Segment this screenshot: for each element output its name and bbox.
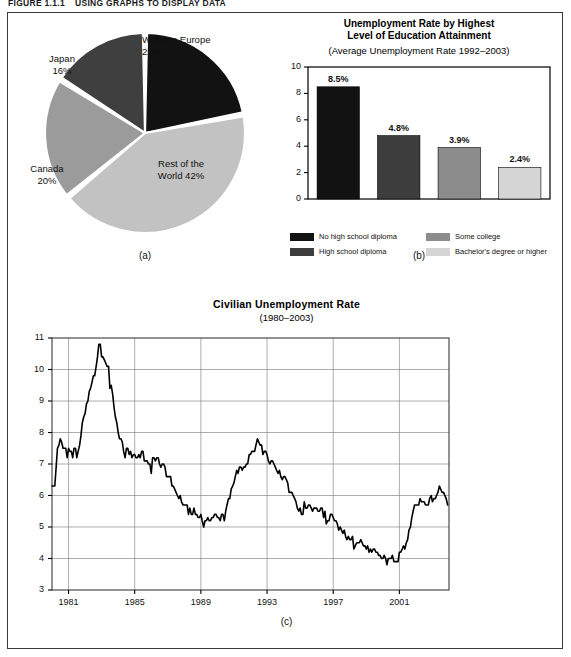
pie-label-rest-of-world-value: World 42%: [142, 170, 220, 182]
legend-swatch-icon: [290, 233, 314, 241]
subfigure-label-c: (c): [14, 616, 559, 627]
figure-caption-text: USING GRAPHS TO DISPLAY DATA: [75, 0, 226, 8]
bar-3: [438, 148, 480, 199]
bar-y-tick-label: 4: [281, 140, 301, 150]
line-x-tick-label: 2001: [382, 597, 416, 607]
line-y-tick-label: 7: [26, 458, 44, 468]
line-x-tick-label: 1997: [316, 597, 350, 607]
figure-number: FIGURE 1.1.1: [8, 0, 65, 8]
pie-label-canada-name: Canada: [16, 163, 78, 175]
pie-label-western-europe-value: 22%: [142, 46, 210, 58]
line-x-tick-label: 1993: [250, 597, 284, 607]
line-y-tick-label: 4: [26, 553, 44, 563]
line-chart-svg: [14, 328, 559, 618]
bar-value-label: 4.8%: [379, 123, 419, 133]
bar-chart-title-line1: Unemployment Rate by Highest: [278, 18, 560, 30]
bar-y-tick-label: 2: [281, 167, 301, 177]
line-y-tick-label: 6: [26, 490, 44, 500]
bar-y-tick-label: 8: [281, 87, 301, 97]
bar-4: [499, 167, 541, 199]
legend-label: No high school diploma: [319, 232, 397, 242]
pie-label-japan-value: 16%: [32, 65, 92, 77]
pie-label-canada-value: 20%: [16, 175, 78, 187]
pie-label-rest-of-world-name: Rest of the: [142, 158, 220, 170]
legend-swatch-icon: [426, 233, 450, 241]
line-x-tick-label: 1985: [118, 597, 152, 607]
legend-label: Some college: [455, 232, 500, 242]
bar-y-tick-label: 6: [281, 114, 301, 124]
bar-2: [378, 136, 420, 199]
pie-label-western-europe: Western Europe 22%: [142, 34, 210, 57]
bar-chart-plot-area: 02468108.5%4.8%3.9%2.4%: [278, 61, 560, 211]
line-y-tick-label: 3: [26, 584, 44, 594]
subfigure-label-a: (a): [14, 250, 276, 261]
line-chart-title: Civilian Unemployment Rate: [14, 298, 559, 310]
bar-chart-subtitle: (Average Unemployment Rate 1992–2003): [278, 45, 560, 57]
bar-value-label: 8.5%: [318, 74, 358, 84]
bar-y-tick-label: 0: [281, 193, 301, 203]
pie-label-canada: Canada 20%: [16, 163, 78, 186]
panel-a-pie-chart: Western Europe 22% Japan 16% Canada 20% …: [14, 18, 276, 270]
bar-1: [317, 87, 359, 199]
line-y-tick-label: 10: [26, 364, 44, 374]
bar-chart-title-line2: Level of Education Attainment: [278, 30, 560, 42]
line-series-unemployment-rate: [52, 344, 448, 565]
line-chart-plot-area: 34567891011198119851989199319972001: [14, 328, 559, 618]
line-y-tick-label: 5: [26, 521, 44, 531]
line-y-tick-label: 9: [26, 395, 44, 405]
line-y-tick-label: 8: [26, 427, 44, 437]
panel-b-bar-chart: Unemployment Rate by Highest Level of Ed…: [278, 18, 560, 270]
bar-y-tick-label: 10: [281, 61, 301, 71]
legend-item: No high school diploma: [290, 232, 426, 242]
subfigure-label-b: (b): [278, 250, 560, 261]
figure-caption: FIGURE 1.1.1USING GRAPHS TO DISPLAY DATA: [8, 0, 226, 8]
pie-label-western-europe-name: Western Europe: [142, 34, 210, 46]
bar-value-label: 3.9%: [439, 135, 479, 145]
pie-label-japan-name: Japan: [32, 53, 92, 65]
line-x-tick-label: 1989: [184, 597, 218, 607]
pie-label-rest-of-world: Rest of the World 42%: [142, 158, 220, 181]
line-x-tick-label: 1981: [52, 597, 86, 607]
panel-c-line-chart: Civilian Unemployment Rate (1980–2003) 3…: [14, 298, 559, 648]
pie-label-japan: Japan 16%: [32, 53, 92, 76]
bar-value-label: 2.4%: [500, 154, 540, 164]
line-chart-subtitle: (1980–2003): [14, 312, 559, 323]
legend-item: Some college: [426, 232, 500, 242]
legend-row: No high school diplomaSome college: [290, 232, 560, 242]
line-y-tick-label: 11: [26, 332, 44, 342]
bar-chart-title: Unemployment Rate by Highest Level of Ed…: [278, 18, 560, 42]
